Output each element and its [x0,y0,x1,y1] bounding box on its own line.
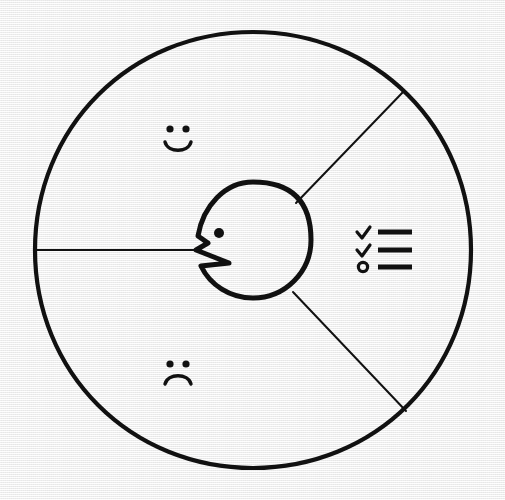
sad-right-eye-icon [182,360,189,367]
checklist-row [357,227,412,238]
check-icon [357,227,370,238]
head-eye-icon [214,228,224,238]
checklist-icon [357,227,412,272]
check-icon [357,245,370,256]
checklist-row [358,262,412,271]
sad-left-eye-icon [166,360,173,367]
head-profile-outline [196,182,311,298]
smiley-right-eye-icon [182,125,189,132]
sad-face-icon [165,360,191,384]
smiley-face-icon [165,125,191,150]
spoke-upper-right-divider [296,91,404,203]
circle-unchecked-icon [358,262,367,271]
diagram-canvas [0,0,505,500]
circular-sector-diagram [0,0,505,500]
checklist-row [357,245,412,256]
spoke-lower-right-divider [293,292,406,411]
smiley-left-eye-icon [166,125,173,132]
sad-mouth-icon [165,376,191,384]
head-profile-group [196,182,311,298]
sector-divider-group [37,91,406,411]
smiley-mouth-icon [165,142,191,150]
